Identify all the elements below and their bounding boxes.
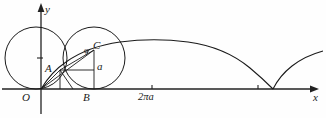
label-tick-2pia: 2πa	[138, 92, 154, 103]
label-point-c: C	[93, 40, 100, 51]
label-angle-phi: φ	[84, 47, 88, 55]
cycloid-arch-first	[41, 40, 273, 89]
label-point-a: A	[45, 63, 52, 74]
y-axis-group	[37, 3, 44, 114]
rolling-circle-start	[5, 27, 67, 89]
label-radius-a: a	[97, 61, 103, 72]
segment-ac	[60, 50, 94, 70]
y-axis-arrowhead	[38, 3, 45, 12]
label-y-axis: y	[45, 4, 50, 15]
cycloid-arch-second	[273, 51, 323, 89]
label-origin: O	[22, 92, 30, 103]
label-x-axis: x	[313, 92, 318, 103]
label-point-b: B	[83, 92, 90, 103]
cycloid-figure: O A B C φ a 2πa x y	[0, 0, 326, 118]
cycloid-diagram-svg	[0, 0, 326, 118]
